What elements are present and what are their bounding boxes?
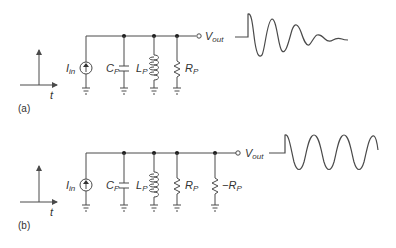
top-wire-a <box>86 36 196 62</box>
impulse-input-graph-a: t <box>20 50 57 101</box>
output-terminal-icon <box>197 34 201 38</box>
capacitor-cp-b: CP <box>106 151 129 211</box>
ground-icon <box>173 205 181 211</box>
top-wire-b <box>86 153 236 179</box>
arrow-up-icon <box>83 180 89 184</box>
capacitor-label: CP <box>106 62 120 76</box>
ground-icon <box>120 205 128 211</box>
panel-label-b: (b) <box>18 220 30 231</box>
resistor-icon <box>212 178 218 194</box>
circuit-figure: t (a) Iin <box>0 0 396 248</box>
ground-icon <box>120 88 128 94</box>
impulse-input-graph-b: t <box>20 166 57 218</box>
time-axis-label: t <box>50 89 54 101</box>
arrow-up-icon <box>83 63 89 67</box>
ground-icon <box>150 88 158 94</box>
sustained-waveform <box>269 135 378 170</box>
ground-icon <box>82 205 90 211</box>
ground-icon <box>150 205 158 211</box>
inductor-coil-icon <box>150 55 159 80</box>
resistor-label: RP <box>185 62 199 76</box>
ground-icon <box>173 88 181 94</box>
ground-icon <box>211 205 219 211</box>
capacitor-label: CP <box>106 179 120 193</box>
resistor-rp-a: RP <box>173 34 199 94</box>
negative-resistor-label: −RP <box>222 179 242 193</box>
panel-b: t (b) Iin <box>18 135 378 231</box>
vout-label-b: Vout <box>245 147 264 161</box>
damped-waveform <box>235 14 348 56</box>
current-source-b: Iin <box>66 179 92 211</box>
resistor-icon <box>174 178 180 194</box>
resistor-rp-b: RP <box>173 151 199 211</box>
capacitor-cp-a: CP <box>106 34 129 94</box>
current-source-a: Iin <box>66 62 92 94</box>
inductor-coil-icon <box>150 172 159 197</box>
negative-resistor-b: −RP <box>211 151 242 211</box>
inductor-label: LP <box>136 179 148 193</box>
output-terminal-icon <box>236 151 240 155</box>
source-label: Iin <box>66 179 76 193</box>
vout-label-a: Vout <box>205 30 224 44</box>
panel-label-a: (a) <box>18 103 30 114</box>
resistor-icon <box>174 61 180 77</box>
inductor-label: LP <box>136 62 148 76</box>
inductor-lp-b: LP <box>136 151 159 211</box>
panel-a: t (a) Iin <box>18 14 348 114</box>
time-axis-label: t <box>50 206 54 218</box>
resistor-label: RP <box>185 179 199 193</box>
inductor-lp-a: LP <box>136 34 159 94</box>
source-label: Iin <box>66 62 76 76</box>
ground-icon <box>82 88 90 94</box>
